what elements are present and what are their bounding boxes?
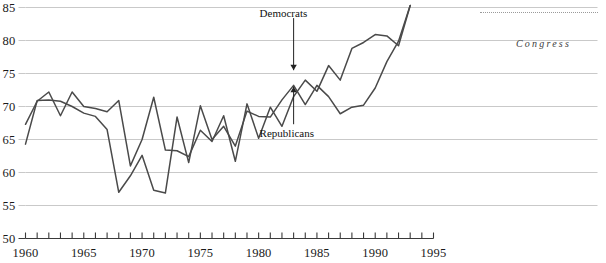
series-line-democrats [26,6,411,166]
y-axis-label: 85 [0,2,16,15]
margin-note-congress: Congress [516,38,571,49]
x-axis-label: 1985 [294,247,340,260]
annotation-arrowhead-down [290,65,296,71]
x-axis-label: 1990 [352,247,398,260]
x-axis-label: 1995 [411,247,457,260]
y-axis-label: 75 [0,68,16,81]
x-axis-label: 1965 [61,247,107,260]
series-label-democrats: Democrats [260,8,308,19]
y-axis-label: 50 [0,233,16,246]
decorative-dotted-rule [480,12,598,13]
chart-figure: 5055606570758085 19601965197019751980198… [0,0,606,263]
x-axis-label: 1980 [236,247,282,260]
y-axis-label: 80 [0,35,16,48]
y-axis-label: 55 [0,200,16,213]
x-axis-label: 1970 [119,247,165,260]
x-axis-label: 1960 [3,247,49,260]
y-axis-label: 70 [0,101,16,114]
y-axis-label: 65 [0,134,16,147]
x-axis-label: 1975 [177,247,223,260]
series-label-republicans: Republicans [260,128,314,139]
y-axis-label: 60 [0,167,16,180]
series-line-republicans [26,6,411,193]
